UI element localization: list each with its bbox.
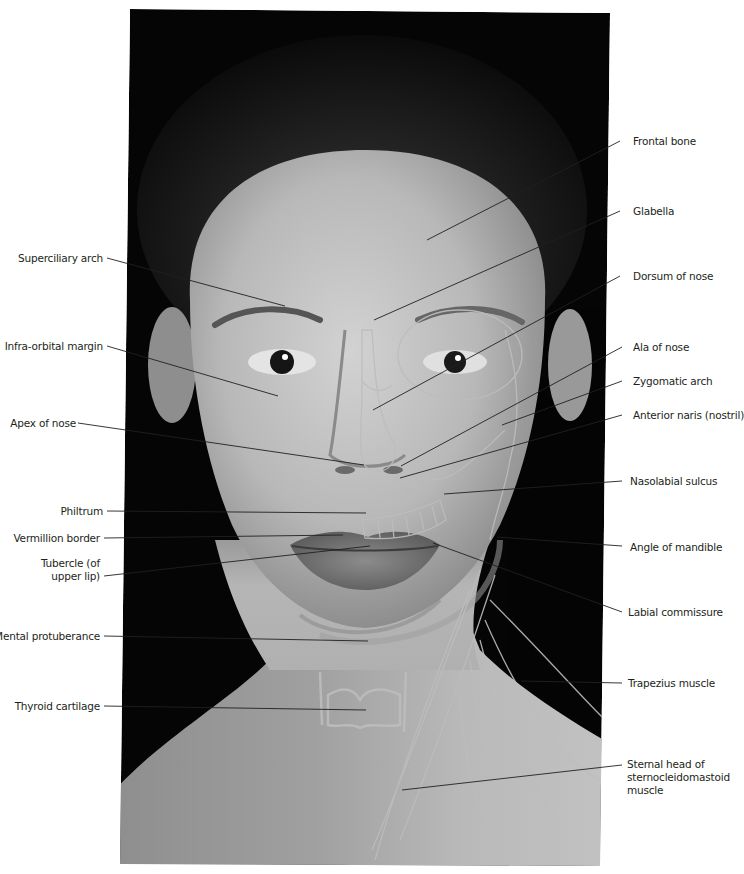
label-tubercle-upper-lip: Tubercle (of upper lip) bbox=[41, 557, 100, 583]
label-ala-of-nose: Ala of nose bbox=[633, 341, 689, 354]
label-infra-orbital-margin: Infra-orbital margin bbox=[5, 340, 103, 353]
label-glabella: Glabella bbox=[633, 205, 674, 218]
label-mental-protuberance: Mental protuberance bbox=[0, 630, 100, 643]
label-superciliary-arch: Superciliary arch bbox=[18, 252, 103, 265]
label-frontal-bone: Frontal bone bbox=[633, 135, 696, 148]
label-zygomatic-arch: Zygomatic arch bbox=[633, 375, 712, 388]
label-apex-of-nose: Apex of nose bbox=[10, 417, 76, 430]
label-trapezius-muscle: Trapezius muscle bbox=[628, 677, 715, 690]
label-nasolabial-sulcus: Nasolabial sulcus bbox=[630, 475, 717, 488]
highlight-left bbox=[282, 354, 288, 360]
label-labial-commissure: Labial commissure bbox=[628, 606, 723, 619]
label-sternal-head-scm: Sternal head of sternocleidomastoid musc… bbox=[627, 758, 730, 797]
label-philtrum: Philtrum bbox=[60, 505, 103, 518]
highlight-right bbox=[455, 355, 461, 361]
iris-left bbox=[270, 350, 294, 374]
nostril-left bbox=[335, 466, 355, 474]
label-angle-of-mandible: Angle of mandible bbox=[630, 541, 722, 554]
ear-right bbox=[548, 309, 592, 421]
label-thyroid-cartilage: Thyroid cartilage bbox=[15, 700, 100, 713]
label-vermillion-border: Vermillion border bbox=[13, 532, 100, 545]
label-dorsum-of-nose: Dorsum of nose bbox=[633, 270, 713, 283]
label-anterior-naris: Anterior naris (nostril) bbox=[633, 409, 744, 422]
